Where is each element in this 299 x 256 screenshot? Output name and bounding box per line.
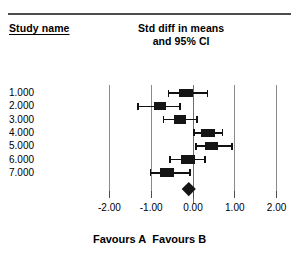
effect-size-marker xyxy=(205,142,218,150)
axis-tick-label: -2.00 xyxy=(98,202,121,213)
axis-tick xyxy=(109,191,110,198)
axis-tick-label: 1.00 xyxy=(225,202,244,213)
effect-header-line1: Std diff in means xyxy=(138,22,224,34)
header-divider xyxy=(8,13,291,15)
study-label: 2.000 xyxy=(9,100,34,111)
effect-size-marker xyxy=(160,168,173,177)
effect-header-line2: and 95% CI xyxy=(138,35,224,48)
gridline xyxy=(276,85,277,196)
favours-footer: Favours AFavours B xyxy=(0,233,299,245)
axis-tick xyxy=(234,191,235,198)
confidence-interval-cap xyxy=(168,90,170,97)
effect-size-marker xyxy=(174,115,187,123)
effect-size-marker xyxy=(154,102,166,110)
axis-tick xyxy=(193,191,194,198)
favours-right-label: Favours B xyxy=(152,233,206,245)
axis-tick-label: -1.00 xyxy=(140,202,163,213)
confidence-interval-cap xyxy=(207,90,209,97)
confidence-interval-cap xyxy=(231,143,233,150)
effect-size-marker xyxy=(201,129,214,138)
study-label: 5.000 xyxy=(9,140,34,151)
confidence-interval-cap xyxy=(193,129,195,136)
axis-tick-label: 0.00 xyxy=(183,202,202,213)
confidence-interval-cap xyxy=(204,156,206,163)
effect-size-marker xyxy=(181,155,195,164)
gridline xyxy=(234,85,235,196)
confidence-interval-cap xyxy=(196,116,198,123)
study-label: 3.000 xyxy=(9,114,34,125)
confidence-interval-cap xyxy=(222,129,224,136)
confidence-interval-cap xyxy=(163,116,165,123)
favours-left-label: Favours A xyxy=(93,233,146,245)
effect-size-marker xyxy=(179,89,193,98)
axis-tick xyxy=(276,191,277,198)
confidence-interval-cap xyxy=(189,169,191,176)
forest-plot: Study name Std diff in means and 95% CI … xyxy=(0,0,299,256)
axis-tick-label: 2.00 xyxy=(267,202,286,213)
gridline xyxy=(109,85,110,196)
confidence-interval-cap xyxy=(169,156,171,163)
study-name-column-header: Study name xyxy=(9,22,70,34)
study-label: 6.000 xyxy=(9,154,34,165)
confidence-interval-cap xyxy=(137,103,139,110)
confidence-interval-cap xyxy=(150,169,152,176)
summary-effect-diamond xyxy=(182,182,195,195)
gridline xyxy=(151,85,152,196)
confidence-interval-cap xyxy=(179,103,181,110)
effect-column-header: Std diff in means and 95% CI xyxy=(138,22,224,48)
axis-tick xyxy=(151,191,152,198)
study-label: 7.000 xyxy=(9,167,34,178)
study-label: 1.000 xyxy=(9,87,34,98)
study-label: 4.000 xyxy=(9,127,34,138)
confidence-interval-cap xyxy=(195,143,197,150)
